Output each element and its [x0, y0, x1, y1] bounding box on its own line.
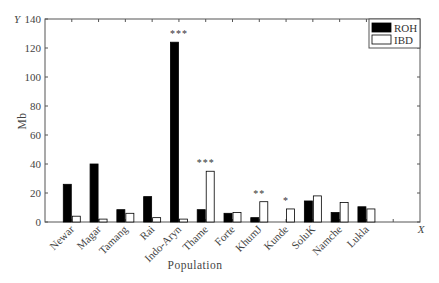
y-tick-label: 100	[25, 71, 42, 83]
x-axis-ticks	[72, 19, 393, 222]
bar-ibd	[313, 196, 321, 222]
plot-frame	[45, 19, 420, 222]
bar-ibd	[72, 216, 80, 222]
legend: ROHIBD	[369, 19, 420, 48]
bar-ibd	[233, 213, 241, 222]
bar-ibd	[153, 218, 161, 222]
plot-border	[45, 19, 420, 222]
bar-ibd	[367, 209, 375, 222]
bar-roh	[197, 210, 205, 222]
bar-ibd	[99, 219, 107, 222]
category-label: Kunde	[261, 223, 290, 252]
bars	[63, 42, 375, 222]
legend-swatch-ibd	[372, 35, 391, 44]
bar-ibd	[260, 202, 268, 222]
y-axis-ticks: 020406080100120140	[25, 13, 421, 228]
bar-chart: 020406080100120140 ********* NewarMagarT…	[0, 0, 439, 283]
y-tick-label: 20	[30, 187, 42, 199]
category-label: Lukla	[344, 223, 371, 250]
x-axis-title: Population	[168, 259, 223, 272]
y-tick-label: 140	[25, 13, 42, 25]
y-axis-title: Mb	[16, 113, 28, 130]
significance-marker: *	[283, 195, 289, 206]
bar-roh	[224, 213, 232, 222]
bar-roh	[251, 218, 259, 222]
significance-marker: ***	[197, 157, 215, 168]
x-axis-marker: X	[417, 223, 426, 235]
category-label: Tamang	[96, 223, 130, 257]
bar-ibd	[179, 219, 187, 222]
bar-roh	[90, 164, 98, 222]
significance-marker: ***	[170, 28, 188, 39]
y-tick-label: 120	[25, 42, 42, 54]
bar-roh	[144, 197, 152, 222]
y-axis-marker: Y	[14, 13, 22, 25]
y-tick-label: 80	[30, 100, 42, 112]
category-label: Newar	[47, 223, 76, 252]
category-label: Rai	[137, 223, 156, 242]
category-label: KhumJ	[233, 222, 264, 253]
legend-label-ibd: IBD	[394, 34, 413, 46]
category-label: Thame	[180, 223, 210, 253]
category-label: Namche	[310, 223, 344, 257]
category-labels: NewarMagarTamangRaiIndo-ArynThameForteKh…	[47, 222, 371, 264]
bar-ibd	[206, 171, 214, 222]
bar-roh	[117, 210, 125, 222]
bar-roh	[63, 184, 71, 222]
bar-roh	[331, 213, 339, 222]
legend-label-roh: ROH	[394, 22, 417, 34]
bar-ibd	[126, 213, 134, 222]
y-tick-label: 0	[36, 216, 42, 228]
bar-roh	[304, 201, 312, 222]
significance-annotations: *********	[170, 28, 289, 206]
legend-swatch-roh	[372, 23, 391, 32]
significance-marker: **	[253, 188, 265, 199]
y-tick-label: 60	[30, 129, 42, 141]
y-tick-label: 40	[30, 158, 42, 170]
bar-ibd	[340, 202, 348, 222]
bar-roh	[170, 42, 178, 222]
bar-ibd	[287, 209, 295, 222]
bar-roh	[358, 207, 366, 222]
